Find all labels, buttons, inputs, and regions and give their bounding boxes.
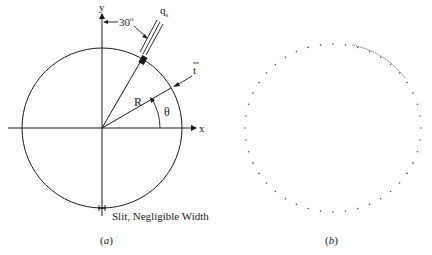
ring-dot [252,162,254,164]
ring-dot [266,182,268,184]
ring-dot [245,115,247,117]
ring-dot [296,204,298,206]
ring-dot [380,57,382,59]
ring-dot [275,64,277,66]
ring-dot [275,191,277,193]
ring-dot [357,208,359,210]
thickness-arrow [177,76,192,85]
ring-dot [244,127,246,129]
ring-dot [248,104,250,106]
ring-dot [320,44,322,46]
ring-dot [380,198,382,200]
ring-dot [258,173,260,175]
y-axis-label: y [99,1,105,13]
radius-label: R [134,95,142,109]
ring-dot [390,191,392,193]
ring-dot [266,72,268,74]
angle-label: 30o [119,15,134,28]
theta-arc [152,99,160,128]
x-axis-label: x [199,122,205,134]
theta-label: θ [164,105,170,119]
ring-dot [285,57,287,59]
angle-arrow-left [103,20,108,24]
figure-a: 30o qs t R θ x y Slit, Negligible Width … [8,1,209,247]
ring-dot [285,198,287,200]
caption-a: (a) [100,234,113,247]
flux-arrows [140,20,163,55]
ring-dot [406,173,408,175]
ring-dot [399,182,401,184]
ring-dot [245,139,247,141]
dotted-circle [244,43,422,213]
ring-dot [419,115,421,117]
ring-dot [345,210,347,212]
slit-label: Slit, Negligible Width [112,210,209,222]
ring-dot [332,211,334,213]
thickness-label: t [193,64,196,76]
ring-dot [406,82,408,84]
ring-dot [417,104,419,106]
caption-b: (b) [325,234,338,247]
flux-radius-line [102,59,142,128]
ring-dot [252,92,254,94]
ring-dot [369,204,371,206]
ring-dot [420,127,422,129]
ring-dot [332,43,334,45]
ring-dot [417,151,419,153]
ring-dot [307,208,309,210]
ring-dot [296,51,298,53]
ring-dot [248,151,250,153]
ring-dot [320,210,322,212]
ring-dot [419,139,421,141]
ring-dot [412,92,414,94]
ring-dot [307,47,309,49]
figure-b: (b) [244,43,422,247]
dense-arc-segment [352,45,405,78]
ring-dot [412,162,414,164]
flux-label: qs [160,4,169,19]
figure-canvas: 30o qs t R θ x y Slit, Negligible Width … [0,0,432,255]
ring-dot [258,82,260,84]
thickness-arrowhead [173,82,180,87]
ring-dot [369,51,371,53]
ring-dot [345,44,347,46]
